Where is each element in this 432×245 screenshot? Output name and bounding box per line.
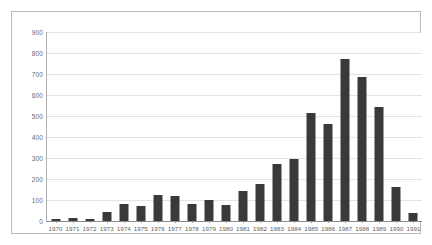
x-tick-mark	[56, 221, 57, 223]
x-tick-mark	[73, 221, 74, 223]
bars-layer: 1970197119721973197419751976197719781979…	[47, 32, 422, 221]
y-tick-label: 400	[32, 134, 43, 141]
x-tick-label: 1973	[100, 225, 114, 232]
x-tick-label: 1982	[253, 225, 267, 232]
x-tick-label: 1978	[185, 225, 199, 232]
bar-group[interactable]: 1984	[286, 32, 303, 221]
x-tick-label: 1983	[270, 225, 284, 232]
x-tick-mark	[141, 221, 142, 223]
bar-group[interactable]: 1974	[115, 32, 132, 221]
x-tick-mark	[209, 221, 210, 223]
bar[interactable]	[136, 206, 145, 221]
bar-group[interactable]: 1987	[337, 32, 354, 221]
bar[interactable]	[256, 184, 265, 221]
plot-area: 0100200300400500600700800900 19701971197…	[46, 32, 422, 222]
bar[interactable]	[375, 107, 384, 221]
x-tick-label: 1988	[355, 225, 369, 232]
bar-group[interactable]: 1978	[183, 32, 200, 221]
x-tick-mark	[277, 221, 278, 223]
bar-group[interactable]: 1991	[405, 32, 422, 221]
x-tick-mark	[175, 221, 176, 223]
bar-group[interactable]: 1989	[371, 32, 388, 221]
bar[interactable]	[153, 195, 162, 221]
bar-group[interactable]: 1971	[64, 32, 81, 221]
x-tick-label: 1991	[406, 225, 420, 232]
bar-group[interactable]: 1977	[166, 32, 183, 221]
bar[interactable]	[170, 196, 179, 221]
x-tick-label: 1990	[389, 225, 403, 232]
chart-figure: 0100200300400500600700800900 19701971197…	[0, 0, 432, 245]
bar-group[interactable]: 1970	[47, 32, 64, 221]
x-tick-label: 1984	[287, 225, 301, 232]
x-tick-mark	[345, 221, 346, 223]
bar-group[interactable]: 1975	[132, 32, 149, 221]
bar[interactable]	[341, 59, 350, 221]
y-tick-label: 600	[32, 92, 43, 99]
x-tick-label: 1970	[49, 225, 63, 232]
y-tick-label: 700	[32, 71, 43, 78]
x-tick-mark	[396, 221, 397, 223]
x-tick-label: 1975	[134, 225, 148, 232]
bar[interactable]	[273, 164, 282, 221]
x-tick-mark	[124, 221, 125, 223]
x-tick-label: 1981	[236, 225, 250, 232]
x-tick-label: 1980	[219, 225, 233, 232]
x-tick-label: 1989	[372, 225, 386, 232]
x-tick-label: 1976	[151, 225, 165, 232]
x-tick-mark	[107, 221, 108, 223]
x-tick-mark	[158, 221, 159, 223]
x-tick-mark	[311, 221, 312, 223]
x-tick-mark	[362, 221, 363, 223]
bar[interactable]	[358, 77, 367, 221]
bar[interactable]	[102, 212, 111, 221]
x-tick-label: 1986	[321, 225, 335, 232]
y-tick-label: 800	[32, 50, 43, 57]
bar-group[interactable]: 1985	[303, 32, 320, 221]
x-tick-label: 1971	[66, 225, 80, 232]
x-tick-label: 1979	[202, 225, 216, 232]
bar-group[interactable]: 1980	[217, 32, 234, 221]
bar-group[interactable]: 1990	[388, 32, 405, 221]
x-tick-mark	[243, 221, 244, 223]
bar[interactable]	[392, 187, 401, 221]
y-tick-label: 500	[32, 113, 43, 120]
bar[interactable]	[307, 113, 316, 221]
bar[interactable]	[290, 159, 299, 221]
x-tick-label: 1974	[117, 225, 131, 232]
x-tick-label: 1977	[168, 225, 182, 232]
bar[interactable]	[324, 124, 333, 221]
y-tick-label: 100	[32, 197, 43, 204]
x-tick-label: 1985	[304, 225, 318, 232]
bar[interactable]	[409, 213, 418, 221]
y-tick-label: 300	[32, 155, 43, 162]
x-tick-label: 1972	[83, 225, 97, 232]
bar[interactable]	[204, 200, 213, 221]
bar-group[interactable]: 1976	[149, 32, 166, 221]
x-tick-mark	[328, 221, 329, 223]
bar[interactable]	[221, 205, 230, 221]
bar[interactable]	[119, 204, 128, 221]
bar-group[interactable]: 1981	[235, 32, 252, 221]
x-tick-mark	[260, 221, 261, 223]
bar-group[interactable]: 1979	[200, 32, 217, 221]
bar-group[interactable]: 1982	[252, 32, 269, 221]
bar-group[interactable]: 1972	[81, 32, 98, 221]
bar-group[interactable]: 1988	[354, 32, 371, 221]
bar[interactable]	[239, 191, 248, 221]
bar-group[interactable]: 1983	[269, 32, 286, 221]
x-tick-mark	[226, 221, 227, 223]
chart-frame: 0100200300400500600700800900 19701971197…	[11, 11, 421, 234]
x-tick-mark	[192, 221, 193, 223]
x-tick-label: 1987	[338, 225, 352, 232]
y-tick-label: 900	[32, 29, 43, 36]
x-tick-mark	[90, 221, 91, 223]
x-tick-mark	[413, 221, 414, 223]
y-tick-label: 200	[32, 176, 43, 183]
x-tick-mark	[379, 221, 380, 223]
x-tick-mark	[294, 221, 295, 223]
bar-group[interactable]: 1973	[98, 32, 115, 221]
bar[interactable]	[187, 204, 196, 221]
bar-group[interactable]: 1986	[320, 32, 337, 221]
y-tick-label: 0	[39, 218, 43, 225]
